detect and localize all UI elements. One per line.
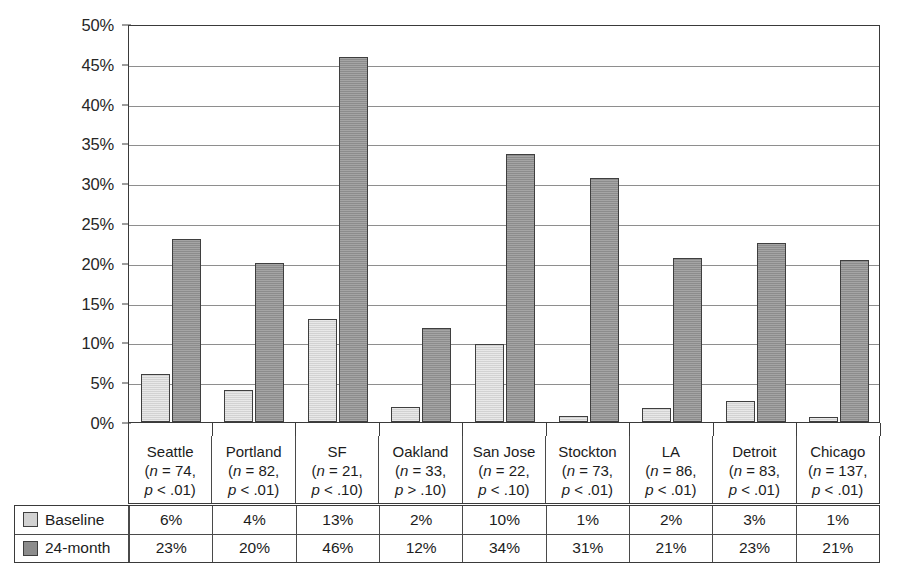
y-axis-tick-label: 5% [91,374,114,393]
plot-area [128,25,880,423]
category-name: Portland [226,442,282,461]
category-p-value: p < .01) [812,480,863,499]
category-p-value: p < .01) [228,480,279,499]
x-axis-tick-mark [546,423,547,436]
table-cell-value: 34% [462,535,545,563]
table-cell-value: 3% [712,506,795,534]
bar-24-month [172,239,201,422]
bar-24-month [757,243,786,422]
bars-layer [129,26,879,422]
bar-group [296,26,380,422]
category-label-cell: Portland(n = 82,p < .01) [211,436,294,503]
y-axis-tick-label: 10% [82,334,114,353]
legend-label-24-month: 24-month [45,539,110,557]
category-name: LA [662,442,680,461]
category-label-cell: SF(n = 21,p < .10) [295,436,378,503]
category-p-value: p < .01) [729,480,780,499]
category-label-cell: LA(n = 86,p < .01) [629,436,712,503]
bar-24-month [673,258,702,422]
bar-group [714,26,798,422]
table-cell-value: 10% [462,506,545,534]
category-name: Chicago [810,442,865,461]
legend-item-24-month: 24-month [15,535,129,563]
category-p-value: p < .01) [562,480,613,499]
category-sample-size: (n = 74, [145,461,196,480]
bar-24-month [590,178,619,422]
category-sample-size: (n = 86, [645,461,696,480]
table-cell-value: 4% [212,506,295,534]
x-axis-tick-mark [379,423,380,436]
bar-24-month [840,260,869,422]
legend-item-baseline: Baseline [15,506,129,534]
bar-24-month [255,263,284,422]
table-cell-value: 21% [629,535,712,563]
data-table: Baseline 6%4%13%2%10%1%2%3%1% 24-month 2… [14,505,880,563]
legend-label-baseline: Baseline [45,511,104,529]
y-axis-tick-label: 45% [82,55,114,74]
y-axis: 50%45%40%35%30%25%20%15%10%5%0% [40,25,122,423]
table-cell-value: 46% [296,535,379,563]
category-label-cell: Oakland(n = 33,p > .10) [378,436,461,503]
legend-swatch-24-month-icon [23,541,38,556]
category-sample-size: (n = 83, [729,461,780,480]
bar-group [213,26,297,422]
category-label-cell: San Jose(n = 22,p < .10) [462,436,545,503]
category-label-cell: Stockton(n = 73,p < .01) [545,436,628,503]
category-sample-size: (n = 137, [808,461,868,480]
table-cell-value: 6% [129,506,212,534]
table-cell-value: 23% [712,535,795,563]
table-cell-value: 21% [796,535,879,563]
bar-baseline [141,374,170,422]
x-axis-tick-mark [128,423,129,436]
bar-group [547,26,631,422]
category-name: Seattle [147,442,194,461]
x-axis-tick-mark [462,423,463,436]
category-sample-size: (n = 22, [478,461,529,480]
bar-group [380,26,464,422]
y-axis-tick-label: 20% [82,254,114,273]
bar-group [463,26,547,422]
category-sample-size: (n = 33, [395,461,446,480]
bar-baseline [726,401,755,422]
bar-baseline [391,407,420,422]
category-label-cell: Detroit(n = 83,p < .01) [712,436,795,503]
table-row: 24-month 23%20%46%12%34%31%21%23%21% [15,534,879,563]
category-p-value: p < .01) [645,480,696,499]
x-axis-tick-mark [295,423,296,436]
y-axis-tick-label: 0% [91,414,114,433]
bar-baseline [224,390,253,422]
category-sample-size: (n = 73, [562,461,613,480]
legend-swatch-baseline-icon [23,512,38,527]
table-cell-value: 13% [296,506,379,534]
category-p-value: p < .01) [145,480,196,499]
category-label-band: Seattle(n = 74,p < .01)Portland(n = 82,p… [128,436,880,504]
bar-baseline [475,344,504,422]
table-cell-value: 2% [629,506,712,534]
category-label-cell: Chicago(n = 137,p < .01) [796,436,879,503]
bar-group [630,26,714,422]
bar-24-month [506,154,535,422]
category-sample-size: (n = 82, [228,461,279,480]
category-name: Detroit [732,442,776,461]
category-label-cell: Seattle(n = 74,p < .01) [129,436,211,503]
category-name: Stockton [558,442,616,461]
bar-baseline [642,408,671,422]
x-axis-tick-mark [212,423,213,436]
x-axis-tick-mark [713,423,714,436]
bar-24-month [422,328,451,422]
x-axis-tick-mark [629,423,630,436]
category-sample-size: (n = 21, [311,461,362,480]
chart-figure: 50%45%40%35%30%25%20%15%10%5%0% Seattle(… [0,0,897,579]
category-p-value: p > .10) [395,480,446,499]
y-axis-tick-label: 35% [82,135,114,154]
category-p-value: p < .10) [478,480,529,499]
y-axis-tick-label: 15% [82,294,114,313]
y-axis-tick-label: 30% [82,175,114,194]
bar-24-month [339,57,368,422]
bar-baseline [308,319,337,422]
category-name: SF [328,442,347,461]
table-cell-value: 12% [379,535,462,563]
category-name: Oakland [393,442,449,461]
table-cell-value: 31% [546,535,629,563]
table-cell-value: 2% [379,506,462,534]
